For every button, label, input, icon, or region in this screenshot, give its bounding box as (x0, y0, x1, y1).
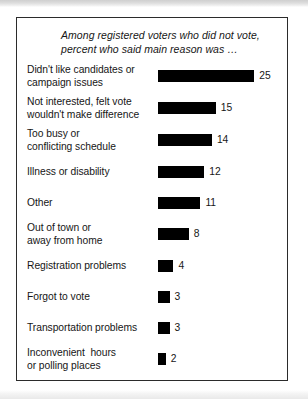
bar-row-label: Not interested, felt votewouldn't make d… (27, 96, 167, 121)
bar-track: 15 (158, 102, 278, 114)
bar-track: 3 (158, 291, 278, 303)
bar-value-label: 2 (171, 352, 177, 365)
bar-row-label: Inconvenient hoursor polling places (27, 347, 167, 372)
bar (158, 353, 166, 365)
bar (158, 197, 200, 209)
bar (158, 166, 204, 178)
chart-title-line-2: percent who said main reason was … (61, 43, 279, 57)
bar-value-label: 8 (194, 227, 200, 240)
bar-row-label: Registration problems (27, 260, 167, 273)
bar-track: 14 (158, 134, 278, 146)
bar (158, 102, 216, 114)
bar-row: Didn't like candidates orcampaign issues… (17, 64, 289, 96)
bar-track: 25 (158, 70, 278, 82)
bar-row-label-line: conflicting schedule (27, 141, 167, 154)
bar-track: 11 (158, 197, 278, 209)
bar-row-label-line: Didn't like candidates or (27, 64, 167, 77)
bar-row: Not interested, felt votewouldn't make d… (17, 96, 289, 128)
bar-row-label: Illness or disability (27, 166, 167, 179)
bar-row: Forgot to vote3 (17, 285, 289, 316)
bar-row-label-line: wouldn't make difference (27, 109, 167, 122)
scan-artifact-top (0, 0, 308, 7)
bar-row-label-line: Forgot to vote (27, 291, 167, 304)
bar (158, 291, 170, 303)
bar-value-label: 3 (175, 321, 181, 334)
bar-row: Transportation problems3 (17, 316, 289, 347)
bar-row-label-line: away from home (27, 235, 167, 248)
bar-row-label: Too busy orconflicting schedule (27, 128, 167, 153)
bar-track: 8 (158, 228, 278, 240)
bar-row-label: Transportation problems (27, 322, 167, 335)
bar-row: Registration problems4 (17, 254, 289, 285)
chart-title: Among registered voters who did not vote… (61, 29, 279, 56)
bar-row-label-line: Not interested, felt vote (27, 96, 167, 109)
bar-row-label-line: Transportation problems (27, 322, 167, 335)
bar-value-label: 11 (205, 196, 216, 209)
bar-row-label: Other (27, 197, 167, 210)
bar-row-label-line: Registration problems (27, 260, 167, 273)
bar-row-label-line: Out of town or (27, 222, 167, 235)
bar (158, 228, 189, 240)
bar-track: 3 (158, 322, 278, 334)
bar-value-label: 3 (175, 290, 181, 303)
bar-track: 4 (158, 260, 278, 272)
bar-value-label: 14 (217, 133, 228, 146)
bar-row: Inconvenient hoursor polling places2 (17, 347, 289, 379)
bar-value-label: 25 (259, 69, 270, 82)
bar-row-label-line: Inconvenient hours (27, 347, 167, 360)
bar-rows: Didn't like candidates orcampaign issues… (17, 64, 289, 379)
bar (158, 134, 212, 146)
bar-row-label: Forgot to vote (27, 291, 167, 304)
bar-track: 12 (158, 166, 278, 178)
chart-title-line-1: Among registered voters who did not vote… (61, 29, 279, 43)
scan-artifact-bottom (0, 390, 308, 399)
bar-value-label: 4 (178, 259, 184, 272)
bar-row-label-line: Too busy or (27, 128, 167, 141)
bar (158, 70, 254, 82)
bar (158, 260, 173, 272)
bar-value-label: 12 (209, 165, 220, 178)
bar-row-label: Didn't like candidates orcampaign issues (27, 64, 167, 89)
bar-row-label-line: Illness or disability (27, 166, 167, 179)
bar-track: 2 (158, 353, 278, 365)
bar-row-label-line: or polling places (27, 360, 167, 373)
bar-row: Illness or disability12 (17, 160, 289, 191)
bar-value-label: 15 (221, 101, 232, 114)
chart-figure-box: Among registered voters who did not vote… (16, 17, 288, 381)
bar-row-label-line: campaign issues (27, 77, 167, 90)
bar-row-label: Out of town oraway from home (27, 222, 167, 247)
bar-row-label-line: Other (27, 197, 167, 210)
bar-row: Other11 (17, 191, 289, 222)
bar-row: Out of town oraway from home8 (17, 222, 289, 254)
bar-row: Too busy orconflicting schedule14 (17, 128, 289, 160)
bar (158, 322, 170, 334)
